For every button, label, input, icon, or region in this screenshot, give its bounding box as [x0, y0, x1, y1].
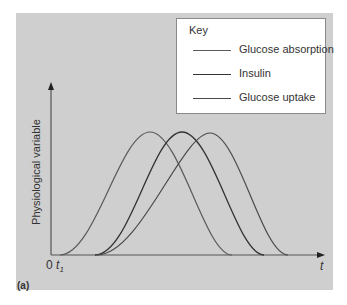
panel-label: (a) — [17, 280, 29, 291]
legend-item-glucose-uptake: Glucose uptake — [177, 91, 325, 105]
legend-item-insulin: Insulin — [177, 67, 325, 81]
legend-key: Key Glucose absorption Insulin Glucose u… — [176, 18, 326, 114]
legend-label: Glucose uptake — [239, 91, 315, 103]
legend-label: Insulin — [239, 67, 271, 79]
y-axis-arrow-icon — [48, 82, 54, 90]
legend-line-icon — [193, 98, 231, 99]
x-axis-label: t — [320, 259, 323, 273]
y-axis-label: Physiological variable — [30, 119, 42, 225]
origin-zero: 0 — [46, 258, 53, 272]
legend-item-glucose-absorption: Glucose absorption — [177, 43, 325, 57]
legend-label: Glucose absorption — [239, 43, 334, 55]
t1-subscript: 1 — [59, 265, 63, 274]
x-axis-origin-label: 0 t1 — [46, 258, 64, 274]
t1-label: t1 — [56, 258, 64, 272]
legend-line-icon — [193, 50, 231, 51]
curve-insulin — [95, 132, 264, 255]
legend-title: Key — [189, 24, 208, 36]
legend-line-icon — [193, 74, 231, 75]
x-axis-arrow-icon — [317, 252, 325, 258]
curve-glucose-absorption — [60, 132, 232, 255]
